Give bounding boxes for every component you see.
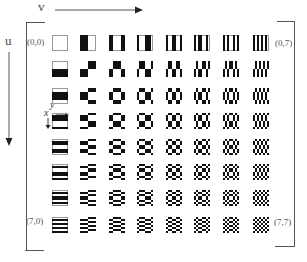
basis-cell-3-3	[137, 113, 153, 129]
basis-cell-5-2	[109, 164, 125, 180]
basis-cell-3-2	[109, 113, 125, 129]
basis-cell-0-1	[80, 35, 96, 51]
corner-label-top-left: (0,0)	[27, 38, 44, 47]
inner-x-arrow-icon	[45, 116, 51, 134]
basis-cell-3-4	[166, 113, 182, 129]
basis-cell-6-0	[52, 190, 68, 206]
basis-cell-5-6	[223, 164, 239, 180]
basis-cell-2-2	[109, 88, 125, 104]
basis-cell-4-4	[166, 139, 182, 155]
v-axis-label: v	[38, 0, 45, 13]
basis-cell-1-5	[194, 61, 210, 77]
basis-cell-0-3	[137, 35, 153, 51]
basis-cell-0-5	[194, 35, 210, 51]
basis-cell-6-6	[223, 190, 239, 206]
basis-cell-3-7	[253, 113, 269, 129]
basis-cell-2-1	[80, 88, 96, 104]
corner-label-top-right: (0,7)	[275, 39, 292, 48]
basis-cell-4-1	[80, 139, 96, 155]
basis-cell-6-1	[80, 190, 96, 206]
basis-cell-4-3	[137, 139, 153, 155]
basis-cell-7-1	[80, 217, 96, 233]
basis-cell-3-1	[80, 113, 96, 129]
basis-cell-2-0	[52, 88, 68, 104]
basis-cell-1-6	[223, 61, 239, 77]
v-axis-arrow-icon	[55, 2, 145, 20]
basis-cell-6-3	[137, 190, 153, 206]
basis-cell-7-7	[253, 217, 269, 233]
basis-cell-5-3	[137, 164, 153, 180]
basis-cell-5-4	[166, 164, 182, 180]
basis-cell-4-6	[223, 139, 239, 155]
basis-cell-1-4	[166, 61, 182, 77]
basis-cell-4-2	[109, 139, 125, 155]
basis-cell-5-0	[52, 164, 68, 180]
basis-cell-5-5	[194, 164, 210, 180]
basis-cell-7-4	[166, 217, 182, 233]
basis-cell-2-6	[223, 88, 239, 104]
basis-cell-5-7	[253, 164, 269, 180]
corner-label-bottom-right: (7,7)	[274, 218, 291, 227]
basis-cell-6-2	[109, 190, 125, 206]
basis-cell-0-2	[109, 35, 125, 51]
basis-cell-0-0	[52, 35, 68, 51]
basis-cell-1-1	[80, 61, 96, 77]
basis-cell-6-5	[194, 190, 210, 206]
basis-cell-7-5	[194, 217, 210, 233]
basis-cell-2-7	[253, 88, 269, 104]
u-axis-arrow-icon	[3, 52, 15, 152]
dct-basis-diagram: v u (0,0) (0,7) (7,0) (7,7) y x	[0, 0, 307, 262]
basis-cell-6-4	[166, 190, 182, 206]
basis-cell-1-0	[52, 61, 68, 77]
basis-cell-7-3	[137, 217, 153, 233]
basis-cell-4-0	[52, 139, 68, 155]
basis-cell-4-5	[194, 139, 210, 155]
basis-cell-2-4	[166, 88, 182, 104]
basis-cell-0-7	[253, 35, 269, 51]
basis-cell-0-4	[166, 35, 182, 51]
basis-cell-4-7	[253, 139, 269, 155]
basis-cell-1-7	[253, 61, 269, 77]
u-axis-label: u	[5, 34, 12, 47]
basis-cell-2-3	[137, 88, 153, 104]
basis-cell-3-6	[223, 113, 239, 129]
basis-cell-1-2	[109, 61, 125, 77]
basis-cell-5-1	[80, 164, 96, 180]
left-bracket-top	[26, 22, 45, 23]
basis-cell-6-7	[253, 190, 269, 206]
basis-cell-7-6	[223, 217, 239, 233]
right-bracket-bottom	[275, 246, 295, 247]
basis-cell-7-2	[109, 217, 125, 233]
right-bracket-top	[277, 21, 295, 22]
left-bracket-bottom	[25, 250, 44, 251]
right-bracket-vertical	[294, 21, 295, 247]
basis-cell-7-0	[52, 217, 68, 233]
corner-label-bottom-left: (7,0)	[26, 217, 43, 226]
basis-cell-2-5	[194, 88, 210, 104]
basis-cell-1-3	[137, 61, 153, 77]
basis-cell-0-6	[223, 35, 239, 51]
basis-cell-3-5	[194, 113, 210, 129]
basis-cell-3-0	[52, 113, 68, 129]
